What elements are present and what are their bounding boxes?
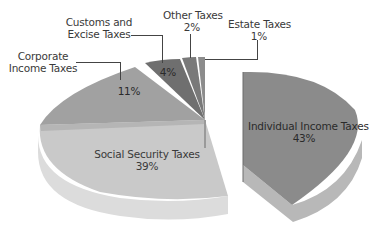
label-other-name: Other Taxes [163, 9, 221, 21]
label-individual: Individual Income Taxes 43% [248, 120, 360, 144]
leader-customs-v [162, 35, 163, 63]
label-customs-line1: Customs and [64, 16, 134, 28]
label-social-name: Social Security Taxes [92, 148, 202, 160]
leader-estate-v [257, 40, 258, 60]
leader-corporate-h [76, 62, 121, 63]
leader-other-v [190, 34, 191, 58]
label-estate-pct: 1% [228, 30, 290, 42]
label-customs-line2: Excise Taxes [64, 28, 134, 40]
label-social-security: Social Security Taxes 39% [92, 148, 202, 172]
label-corporate-pct: 11% [117, 85, 141, 97]
leader-customs-h [131, 35, 163, 36]
label-individual-name: Individual Income Taxes [248, 120, 360, 132]
pie-chart [0, 0, 376, 234]
label-social-pct: 39% [92, 160, 202, 172]
label-corporate-line1: Corporate [8, 50, 78, 62]
leader-corporate-v [120, 62, 121, 80]
label-customs: Customs and Excise Taxes [64, 16, 134, 40]
leader-estate-h [205, 59, 258, 60]
label-corporate: Corporate Income Taxes [8, 50, 78, 74]
label-other-pct: 2% [163, 21, 221, 33]
label-customs-pct: 4% [158, 66, 178, 78]
label-other: Other Taxes 2% [163, 9, 221, 33]
label-estate-name: Estate Taxes [228, 18, 290, 30]
label-corporate-line2: Income Taxes [8, 62, 78, 74]
label-estate: Estate Taxes 1% [228, 18, 290, 42]
label-individual-pct: 43% [248, 132, 360, 144]
